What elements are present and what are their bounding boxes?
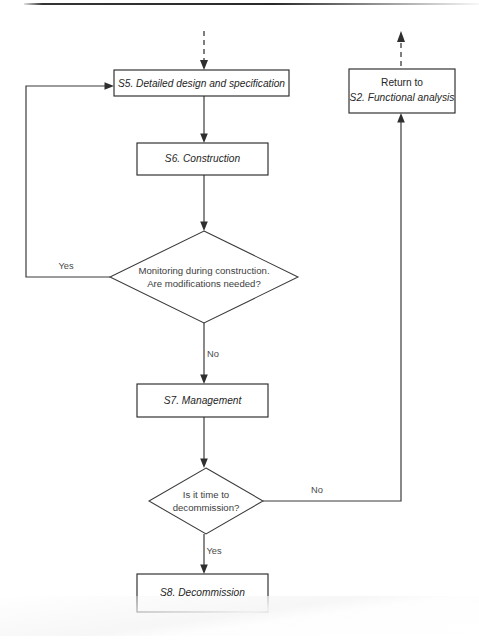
node-s7-management[interactable]: S7. Management [137,384,268,417]
node-decommission-label-line2: decommission? [173,502,240,513]
edge-label-no-decommission: No [311,485,323,495]
node-decommission-label-line1: Is it time to [183,489,229,500]
node-monitoring-label-line1: Monitoring during construction. [138,265,269,276]
edge-s6-to-monitoring [200,175,208,231]
node-decommission-decision[interactable]: Is it time to decommission? [149,468,263,534]
edge-monitoring-yes-to-s5 [26,82,114,277]
node-return-s2-label-line1: Return to [381,77,423,88]
node-s6-construction[interactable]: S6. Construction [137,143,268,175]
node-s5-label: S5. Detailed design and specification [118,78,285,89]
edge-label-no-monitoring: No [207,349,219,359]
node-s8-label: S8. Decommission [160,587,245,598]
node-s7-label: S7. Management [164,395,243,406]
edge-label-yes-decommission: Yes [206,546,222,556]
edge-label-yes-monitoring: Yes [58,261,74,271]
node-s6-label: S6. Construction [165,153,241,164]
node-s8-decommission[interactable]: S8. Decommission [137,574,268,612]
node-monitoring-label-line2: Are modifications needed? [147,278,261,289]
node-monitoring-decision[interactable]: Monitoring during construction. Are modi… [110,231,298,323]
edge-entry-dashed-into-s5 [200,31,208,70]
node-s5-detailed-design[interactable]: S5. Detailed design and specification [114,70,289,96]
edge-return-s2-dashed-exit [397,31,405,66]
node-return-to-s2[interactable]: Return to S2. Functional analysis [349,69,455,113]
node-return-s2-label-line2: S2. Functional analysis [350,92,455,103]
flowchart-page: S5. Detailed design and specification S6… [0,0,479,643]
edge-s5-to-s6 [200,96,208,143]
edge-decommission-no-to-return-s2 [263,113,405,501]
edge-s7-to-decommission-question [200,417,208,468]
flowchart-canvas: S5. Detailed design and specification S6… [0,0,479,643]
